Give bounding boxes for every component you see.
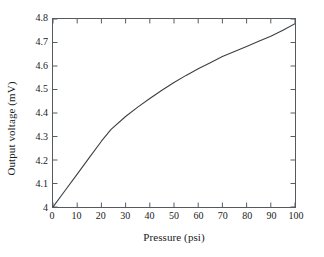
chart-canvas — [53, 19, 295, 207]
y-tick-label: 4.5 — [14, 84, 48, 94]
y-tick-label: 4.2 — [14, 156, 48, 166]
chart-figure: Output voltage (mV) 44.14.24.34.44.54.64… — [0, 0, 324, 257]
data-line-series-1 — [53, 24, 295, 207]
y-tick-label: 4.3 — [14, 132, 48, 142]
y-tick-label: 4.1 — [14, 179, 48, 189]
y-tick-label: 4.6 — [14, 61, 48, 71]
plot-area — [52, 18, 296, 208]
x-axis-title: Pressure (psi) — [52, 231, 296, 243]
y-tick-marks — [53, 19, 295, 207]
x-tick-label: 100 — [279, 211, 313, 221]
y-tick-label: 4.4 — [14, 108, 48, 118]
y-tick-label: 4.7 — [14, 37, 48, 47]
x-tick-marks — [53, 19, 295, 207]
y-tick-label: 4.8 — [14, 13, 48, 23]
